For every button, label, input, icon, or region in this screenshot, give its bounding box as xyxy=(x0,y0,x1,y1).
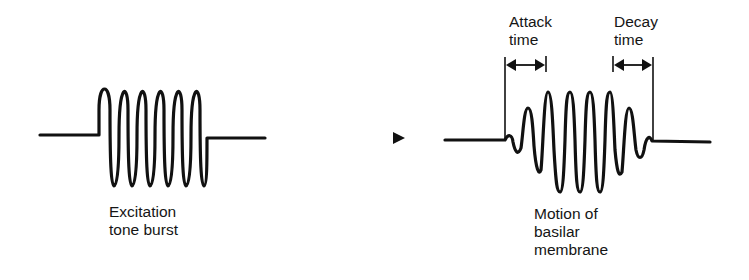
time-markers xyxy=(505,56,653,141)
decay-time-arrow xyxy=(614,59,652,71)
attack-time-label: Attack time xyxy=(509,13,552,49)
membrane-caption: Motion of basilar membrane xyxy=(534,205,608,259)
caption-line: Excitation xyxy=(109,203,178,221)
transform-arrow xyxy=(308,132,405,144)
caption-line: basilar xyxy=(534,223,608,241)
excitation-waveform xyxy=(40,89,265,186)
membrane-waveform xyxy=(445,92,710,192)
label-line: Attack xyxy=(509,13,552,31)
caption-line: Motion of xyxy=(534,205,608,223)
decay-time-label: Decay time xyxy=(614,13,658,49)
caption-line: membrane xyxy=(534,241,608,259)
label-line: time xyxy=(509,31,552,49)
label-line: time xyxy=(614,31,658,49)
attack-time-arrow xyxy=(506,59,545,71)
caption-line: tone burst xyxy=(109,221,178,239)
label-line: Decay xyxy=(614,13,658,31)
excitation-caption: Excitation tone burst xyxy=(109,203,178,239)
